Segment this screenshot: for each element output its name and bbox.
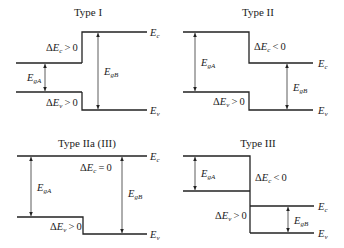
panel-title: Type II	[242, 6, 274, 18]
band-edge-label-Ec: Ec	[317, 201, 328, 214]
delta-ec-label: ΔEc < 0	[255, 172, 287, 185]
band-edge-label-Ev: Ev	[317, 228, 328, 241]
delta-ev-label: ΔEv > 0	[50, 221, 82, 234]
band-edge-label-Ev: Ev	[149, 105, 160, 118]
panel-type-ii: Type IIEgAEgBΔEc < 0ΔEv > 0EcEv	[183, 6, 328, 118]
bandgap-label: EgB	[127, 188, 143, 201]
panel-title: Type IIa (III)	[58, 137, 116, 150]
band-edge-label-Ev: Ev	[149, 229, 160, 242]
delta-ev-label: ΔEv > 0	[213, 96, 245, 109]
panel-type-iii: Type IIIEgAEgBΔEc < 0ΔEv > 0EcEv	[183, 137, 328, 241]
panel-title: Type III	[240, 137, 276, 149]
bandgap-label: EgB	[292, 82, 308, 95]
bandgap-label: EgA	[26, 72, 42, 85]
band-edge-label-Ev: Ev	[317, 105, 328, 118]
diagram-canvas: Type IEgAEgBΔEc > 0ΔEv > 0EcEvType IIEgA…	[0, 0, 344, 248]
bandgap-label: EgA	[200, 57, 216, 70]
band-edge-label-Ec: Ec	[149, 27, 160, 40]
band-edge-ec-step	[82, 32, 147, 63]
delta-ev-label: ΔEv > 0	[46, 97, 78, 110]
band-edge-label-Ec: Ec	[317, 58, 328, 71]
band-edge-ev-step	[17, 217, 147, 234]
delta-ec-label: ΔEc = 0	[80, 162, 112, 175]
delta-ev-label: ΔEv > 0	[215, 210, 247, 223]
delta-ec-label: ΔEc > 0	[46, 42, 78, 55]
band-edge-ev-step	[82, 92, 147, 110]
band-edge-ev-step	[183, 92, 313, 110]
panel-type-iia: Type IIa (III)EgAEgBΔEc = 0ΔEv > 0EcEv	[17, 137, 160, 242]
bandgap-label: EgB	[293, 215, 309, 228]
panel-type-i: Type IEgAEgBΔEc > 0ΔEv > 0EcEv	[16, 6, 160, 118]
bandgap-label: EgA	[200, 168, 216, 181]
delta-ec-label: ΔEc < 0	[254, 41, 286, 54]
band-edge-ec-left	[183, 156, 250, 191]
bandgap-label: EgB	[103, 66, 119, 79]
panel-title: Type I	[74, 6, 103, 18]
bandgap-label: EgA	[36, 182, 52, 195]
band-alignment-diagram: Type IEgAEgBΔEc > 0ΔEv > 0EcEvType IIEgA…	[0, 0, 344, 248]
band-edge-label-Ec: Ec	[149, 151, 160, 164]
